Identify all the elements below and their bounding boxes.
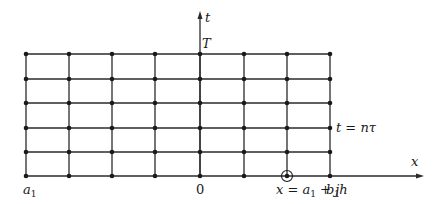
grid-node-dot-icon xyxy=(242,77,247,82)
grid-node-dot-icon xyxy=(153,126,158,131)
grid-node-dot-icon xyxy=(328,52,333,57)
grid-node-dot-icon xyxy=(285,101,290,106)
origin-label: 0 xyxy=(196,182,204,197)
grid-node-dot-icon xyxy=(24,77,29,82)
marked-point-label: x = a1 + jh xyxy=(276,182,348,199)
grid-node-dot-icon xyxy=(67,126,72,131)
grid-node-dot-icon xyxy=(285,126,290,131)
grid-node-dot-icon xyxy=(110,101,115,106)
T-label: T xyxy=(202,36,212,51)
x-axis-arrow-icon xyxy=(416,174,424,179)
grid-node-dot-icon xyxy=(285,150,290,155)
grid-node-dot-icon xyxy=(285,52,290,57)
grid-node-dot-icon xyxy=(242,150,247,155)
grid-node-dot-icon xyxy=(153,52,158,57)
grid-node-dot-icon xyxy=(110,126,115,131)
grid-node-dot-icon xyxy=(24,101,29,106)
grid-node-dot-icon xyxy=(67,52,72,57)
grid-node-dot-icon xyxy=(242,101,247,106)
grid-node-dot-icon xyxy=(67,174,72,179)
t-axis-arrow-icon xyxy=(198,11,203,19)
grid-node-dot-icon xyxy=(198,101,203,106)
grid-node-dot-icon xyxy=(285,174,290,179)
grid-node-dot-icon xyxy=(110,52,115,57)
grid-node-dot-icon xyxy=(153,101,158,106)
axes xyxy=(198,11,425,179)
grid-node-dot-icon xyxy=(285,77,290,82)
grid-node-dot-icon xyxy=(67,101,72,106)
grid-node-dot-icon xyxy=(242,126,247,131)
grid-node-dot-icon xyxy=(24,52,29,57)
grid-node-dot-icon xyxy=(328,77,333,82)
grid-node-dot-icon xyxy=(198,174,203,179)
grid-lines xyxy=(26,54,330,176)
grid-node-dot-icon xyxy=(24,174,29,179)
grid-node-dot-icon xyxy=(328,174,333,179)
grid-node-dot-icon xyxy=(153,150,158,155)
grid-node-dot-icon xyxy=(198,77,203,82)
grid-node-dot-icon xyxy=(153,77,158,82)
grid-node-dot-icon xyxy=(198,52,203,57)
left-boundary-label: a1 xyxy=(23,182,37,199)
grid-nodes xyxy=(24,52,333,179)
grid-node-dot-icon xyxy=(110,77,115,82)
grid-node-dot-icon xyxy=(110,150,115,155)
grid-node-dot-icon xyxy=(242,52,247,57)
grid-node-dot-icon xyxy=(67,77,72,82)
grid-node-dot-icon xyxy=(67,150,72,155)
grid-node-dot-icon xyxy=(153,174,158,179)
t-axis-label: t xyxy=(205,10,211,25)
grid-node-dot-icon xyxy=(328,150,333,155)
row-label-t-equals-n-tau: t = nτ xyxy=(336,120,377,135)
grid-node-dot-icon xyxy=(198,150,203,155)
grid-node-dot-icon xyxy=(198,126,203,131)
grid-node-dot-icon xyxy=(242,174,247,179)
grid-node-dot-icon xyxy=(328,101,333,106)
grid-node-dot-icon xyxy=(24,150,29,155)
grid-node-dot-icon xyxy=(110,174,115,179)
grid-node-dot-icon xyxy=(24,126,29,131)
grid-node-dot-icon xyxy=(328,126,333,131)
x-axis-label: x xyxy=(411,154,419,169)
finite-difference-grid-diagram: t T x t = nτ a1 0 b1 x = a1 + jh xyxy=(0,0,443,204)
